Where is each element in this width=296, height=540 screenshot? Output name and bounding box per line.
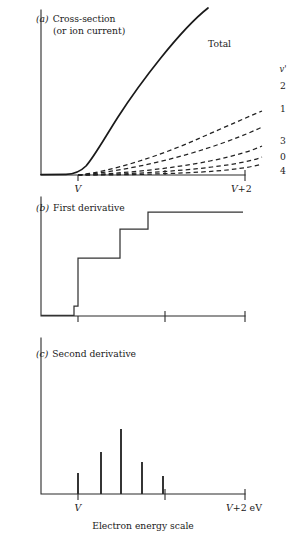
- panel-c-axes: [41, 338, 245, 494]
- panel-a-vib-label-0: 2: [280, 80, 286, 91]
- panel-a-curve-v4: [78, 164, 262, 175]
- x-axis-label: Electron energy scale: [92, 520, 194, 531]
- panel-a-vib-label-2: 3: [280, 135, 286, 146]
- panel-c-tag: (c): [36, 348, 49, 359]
- panel-a-vib-label-4: 4: [280, 165, 286, 176]
- panel-b-title: (b)First derivative: [36, 202, 125, 213]
- panel-a-title-line1: (a)Cross-section: [36, 13, 116, 24]
- panel-a-total-label: Total: [208, 38, 231, 49]
- panel-b-step-curve: [41, 212, 243, 315]
- panel-c: (c)Second derivative V V+2 eV Electron e…: [36, 338, 262, 531]
- panel-a-vib-header: v': [279, 64, 286, 74]
- panel-a-ticklabel-v2: V+2: [231, 183, 252, 194]
- panel-b-axes: [41, 197, 245, 316]
- panel-c-title: (c)Second derivative: [36, 348, 136, 359]
- panel-a-ticklabel-v: V: [75, 183, 83, 194]
- panel-a: (a)Cross-section (or ion current) Total …: [36, 8, 287, 194]
- panel-a-curve-v0: [78, 157, 262, 175]
- panel-a-vib-label-1: 1: [280, 103, 286, 114]
- panel-a-tag: (a): [36, 13, 49, 24]
- panel-a-title-line2: (or ion current): [53, 25, 125, 36]
- panel-a-vib-label-3: 0: [280, 151, 286, 162]
- figure-svg: (a)Cross-section (or ion current) Total …: [0, 0, 296, 540]
- panel-c-ticklabel-v2: V+2 eV: [226, 502, 262, 513]
- panel-a-curve-v2: [78, 111, 262, 175]
- panel-b-tag: (b): [36, 202, 49, 213]
- panel-b: (b)First derivative: [36, 197, 245, 322]
- figure-container: (a)Cross-section (or ion current) Total …: [0, 0, 296, 540]
- panel-c-ticklabel-v: V: [75, 502, 83, 513]
